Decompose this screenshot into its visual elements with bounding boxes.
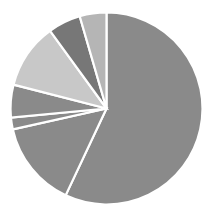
pie-chart-svg (0, 0, 212, 220)
pie-chart-figure (0, 0, 212, 220)
pie-slices-group (11, 12, 203, 204)
